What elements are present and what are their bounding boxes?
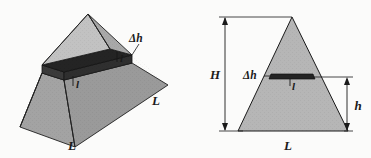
delta-h-leader (132, 44, 139, 55)
right-delta-h-label: Δh (242, 69, 257, 81)
left-grain-overlay (20, 14, 168, 147)
pyramid-slab-figure: Δh l l L L (0, 0, 371, 158)
left-pyramid-group: Δh l l L L (20, 14, 168, 153)
left-delta-h-label: Δh (128, 32, 143, 44)
total-height-label: H (209, 67, 221, 82)
H-arrow-bottom (222, 123, 228, 131)
partial-height-label: h (354, 98, 361, 113)
left-base-L-label: L (67, 138, 76, 153)
left-side-L-label: L (151, 93, 160, 108)
h-arrow-top (344, 77, 350, 85)
right-base-L-label: L (283, 138, 292, 153)
H-arrow-top (222, 17, 228, 25)
figure-canvas: Δh l l L L (0, 0, 371, 158)
right-triangle-group: H Δh l h L (209, 17, 362, 153)
elevation-slab (269, 74, 315, 79)
